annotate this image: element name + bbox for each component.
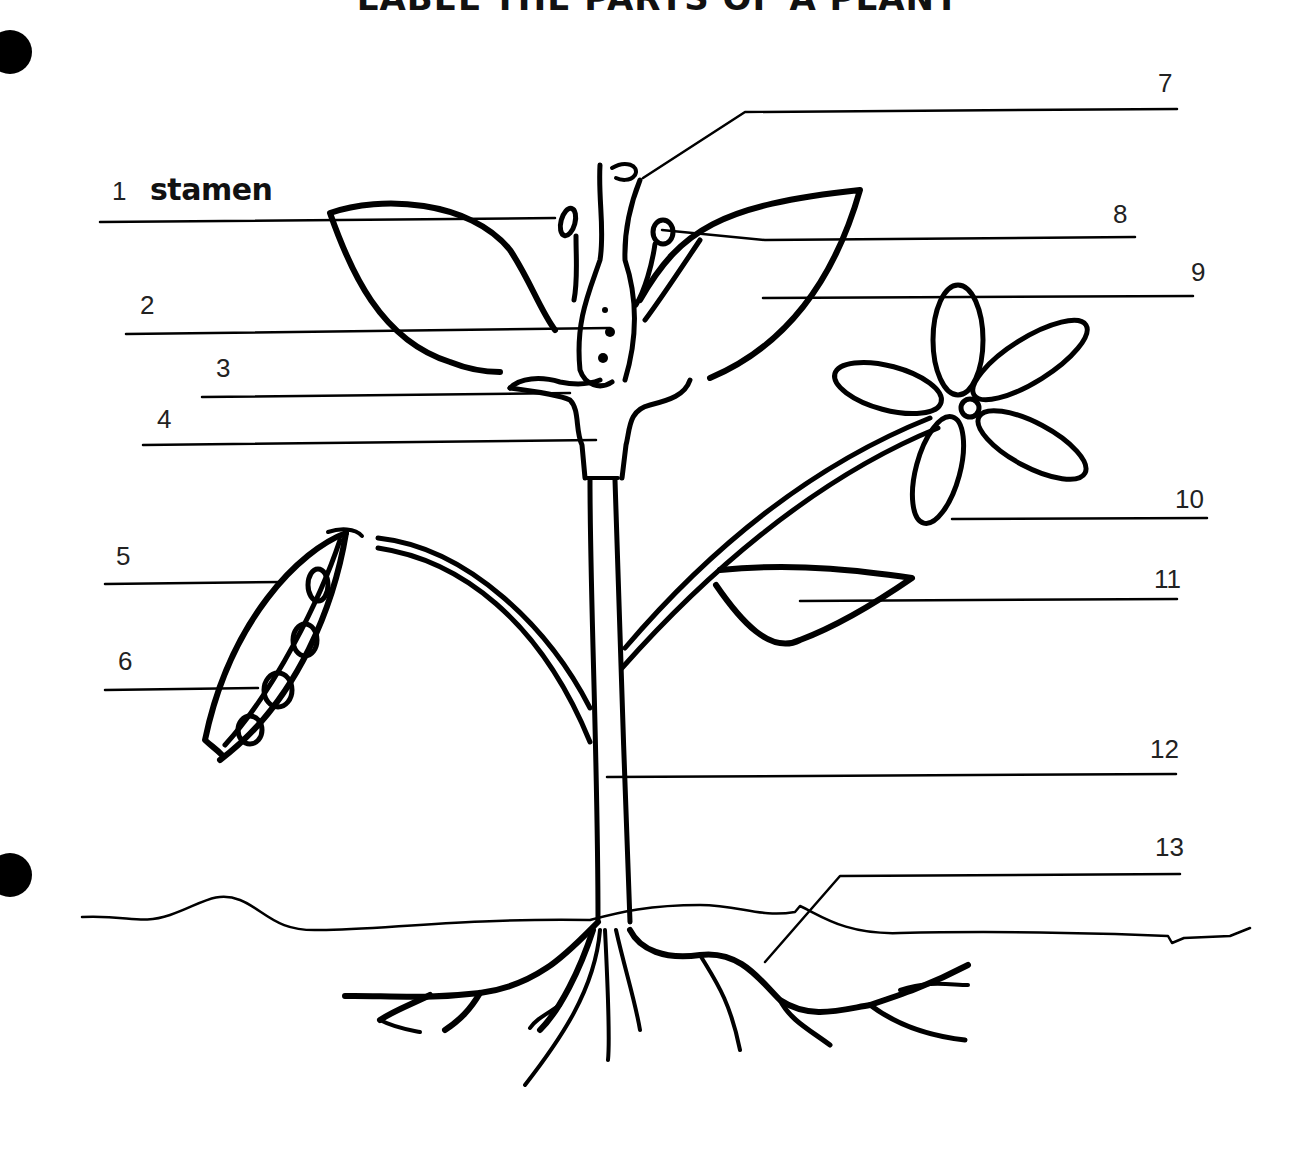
seed-pod [205, 529, 362, 760]
pod-branch [378, 538, 590, 742]
label-number-1: 1 [112, 178, 126, 204]
stem [586, 478, 630, 922]
label-number-7: 7 [1158, 70, 1172, 96]
left-petal [330, 203, 555, 372]
label-number-11: 11 [1154, 566, 1181, 592]
ground-line [82, 897, 1250, 943]
label-number-13: 13 [1155, 834, 1184, 860]
label-number-9: 9 [1191, 259, 1205, 285]
flower [829, 285, 1097, 529]
label-number-3: 3 [216, 355, 230, 381]
pistil [579, 164, 640, 386]
flower-base [510, 379, 690, 478]
label-number-4: 4 [157, 406, 171, 432]
label-number-10: 10 [1175, 486, 1204, 512]
flower-branch [622, 418, 938, 668]
label-number-6: 6 [118, 648, 132, 674]
small-leaf [716, 567, 912, 644]
label-answer-1[interactable]: stamen [150, 175, 272, 205]
label-number-12: 12 [1150, 736, 1179, 762]
roots [345, 922, 968, 1085]
label-number-8: 8 [1113, 201, 1127, 227]
label-number-5: 5 [116, 543, 130, 569]
label-number-2: 2 [140, 292, 154, 318]
